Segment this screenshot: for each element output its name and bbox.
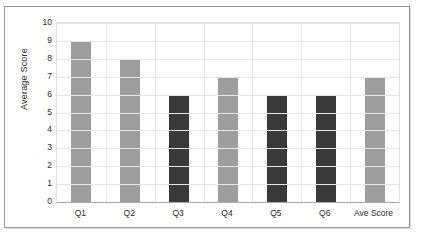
y-axis-tick-label: 3 (30, 143, 52, 152)
plot-area (56, 22, 400, 203)
x-axis-tick-label: Q6 (300, 206, 349, 220)
x-axis-tick-label: Q2 (105, 206, 154, 220)
bar-q1 (71, 41, 91, 202)
gridline-horizontal (57, 23, 399, 24)
gridline-horizontal (57, 59, 399, 60)
y-axis-tick-label: 1 (30, 179, 52, 188)
y-axis-tick-label: 2 (30, 161, 52, 170)
gridline-horizontal (57, 148, 399, 149)
gridline-horizontal (57, 77, 399, 78)
gridline-horizontal (57, 113, 399, 114)
gridline-vertical (301, 23, 302, 202)
chart-screenshot: Average Score 012345678910 Q1Q2Q3Q4Q5Q6A… (0, 0, 422, 234)
y-axis-tick-label: 6 (30, 89, 52, 98)
gridline-vertical (204, 23, 205, 202)
gridline-horizontal (57, 95, 399, 96)
gridline-horizontal (57, 41, 399, 42)
y-axis-tick-label: 8 (30, 54, 52, 63)
gridline-horizontal (57, 184, 399, 185)
gridline-vertical (155, 23, 156, 202)
gridline-vertical (106, 23, 107, 202)
x-axis-tick-label: Q3 (154, 206, 203, 220)
y-axis-tick-label: 5 (30, 107, 52, 116)
gridline-horizontal (57, 130, 399, 131)
x-axis-tick-label: Q1 (56, 206, 105, 220)
gridline-vertical (350, 23, 351, 202)
gridline-horizontal (57, 166, 399, 167)
x-axis-tick-labels: Q1Q2Q3Q4Q5Q6Ave Score (56, 206, 400, 222)
x-axis-tick-label: Ave Score (349, 206, 398, 220)
bar-chart: Average Score 012345678910 Q1Q2Q3Q4Q5Q6A… (4, 6, 410, 228)
y-axis-tick-label: 4 (30, 125, 52, 134)
y-axis-tick-label: 7 (30, 71, 52, 80)
x-axis-tick-label: Q4 (203, 206, 252, 220)
y-axis-tick-label: 0 (30, 197, 52, 206)
y-axis-tick-labels: 012345678910 (30, 16, 52, 206)
y-axis-tick-label: 9 (30, 36, 52, 45)
gridline-vertical (252, 23, 253, 202)
y-axis-title: Average Score (19, 24, 29, 134)
x-axis-tick-label: Q5 (251, 206, 300, 220)
y-axis-tick-label: 10 (30, 18, 52, 27)
